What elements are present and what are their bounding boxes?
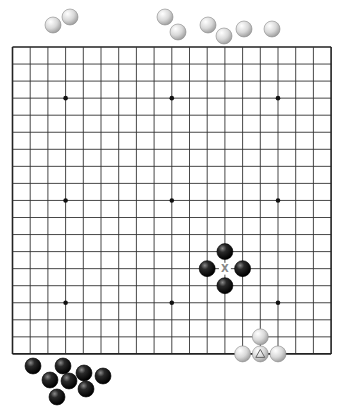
captured-white-stone [62,9,78,25]
star-point [170,300,175,305]
star-point [276,300,281,305]
white-stone[interactable] [270,346,286,362]
captured-white-stone [216,28,232,44]
captured-black-stone [25,358,41,374]
white-stone[interactable] [252,346,268,362]
star-point [63,300,68,305]
captured-black-stone [61,373,77,389]
white-stone[interactable] [235,346,251,362]
captured-black-stone [95,368,111,384]
captured-black-stone [55,358,71,374]
captured-black-stone [42,372,58,388]
captured-white-stone [45,17,61,33]
star-point [63,198,68,203]
captured-black-stone [78,381,94,397]
black-stone[interactable] [235,261,251,277]
captured-white-stone [200,17,216,33]
black-stone[interactable] [217,244,233,260]
captured-stones [25,9,280,405]
captured-white-stone [170,24,186,40]
black-stone[interactable] [199,261,215,277]
captured-black-stone [76,365,92,381]
captured-white-stone [236,21,252,37]
black-stone[interactable] [217,278,233,294]
star-point [170,198,175,203]
captured-white-stone [157,9,173,25]
star-point [276,96,281,101]
captured-white-stone [264,21,280,37]
x-marker-icon: X [221,263,229,274]
star-point [170,96,175,101]
go-board[interactable]: X [0,0,339,406]
star-point [63,96,68,101]
star-point [276,198,281,203]
captured-black-stone [49,389,65,405]
white-stone[interactable] [252,329,268,345]
